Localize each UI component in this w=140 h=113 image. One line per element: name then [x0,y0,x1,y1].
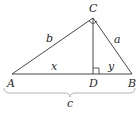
label-vertex-c: C [89,2,98,15]
label-side-b: b [46,32,53,45]
label-vertex-b: B [127,77,136,90]
label-segment-y: y [107,60,115,73]
label-vertex-d: D [88,77,98,90]
brace-c [4,88,135,97]
label-vertex-a: A [6,77,15,90]
right-angle-mark-d [93,68,99,74]
label-hypotenuse-c: c [67,97,73,110]
triangle-diagram: C A D B b a x y c [0,0,140,113]
label-segment-x: x [51,60,58,73]
label-side-a: a [114,33,121,46]
